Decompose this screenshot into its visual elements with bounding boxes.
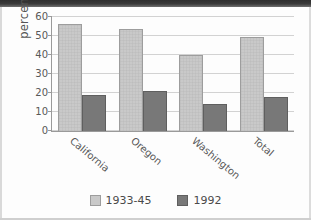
x-tick-cell-oregon: Oregon xyxy=(112,133,173,189)
legend-item-1933-45: 1933-45 xyxy=(90,194,152,207)
legend-swatch-icon-1933-45 xyxy=(90,195,101,206)
ytick-label-60: 60 xyxy=(35,11,48,22)
bar-group-washington xyxy=(173,17,234,131)
x-tick-label-california: California xyxy=(68,135,111,174)
ytick-label-30: 30 xyxy=(35,68,48,79)
ytick-label-50: 50 xyxy=(35,30,48,41)
legend-label-1933-45: 1933-45 xyxy=(106,194,152,207)
chart-legend: 1933-45 1992 xyxy=(0,194,311,207)
bar-california-1933-45 xyxy=(58,24,82,131)
legend-label-1992: 1992 xyxy=(193,194,221,207)
scan-artifact-band xyxy=(0,0,311,7)
legend-item-1992: 1992 xyxy=(177,194,221,207)
ytick-label-10: 10 xyxy=(35,106,48,117)
bar-total-1992 xyxy=(264,97,288,131)
y-axis-title: percent xyxy=(17,0,33,65)
bar-group-total xyxy=(234,17,295,131)
bar-chart: percent 60 50 40 30 20 10 0 xyxy=(0,0,311,220)
x-tick-cell-total: Total xyxy=(233,133,294,189)
bar-washington-1933-45 xyxy=(179,55,203,131)
plot-area: 60 50 40 30 20 10 0 xyxy=(51,17,294,132)
x-tick-label-oregon: Oregon xyxy=(129,135,164,167)
ytick-label-20: 20 xyxy=(35,87,48,98)
x-axis-tick-labels: California Oregon Washington Total xyxy=(51,133,294,189)
x-tick-cell-washington: Washington xyxy=(173,133,234,189)
legend-swatch-icon-1992 xyxy=(177,195,188,206)
page-edge-right xyxy=(309,7,311,220)
bar-group-oregon xyxy=(113,17,174,131)
x-tick-cell-california: California xyxy=(51,133,112,189)
ytick-label-40: 40 xyxy=(35,49,48,60)
bar-group-california xyxy=(52,17,113,131)
ytick-label-0: 0 xyxy=(42,125,48,136)
bar-groups xyxy=(52,17,294,131)
bar-oregon-1992 xyxy=(143,91,167,131)
x-tick-label-total: Total xyxy=(251,135,276,158)
bar-oregon-1933-45 xyxy=(119,29,143,131)
bar-total-1933-45 xyxy=(240,37,264,131)
bar-california-1992 xyxy=(82,95,106,131)
page-edge-bottom xyxy=(0,218,311,220)
page-edge-left xyxy=(0,7,2,220)
bar-washington-1992 xyxy=(203,104,227,131)
